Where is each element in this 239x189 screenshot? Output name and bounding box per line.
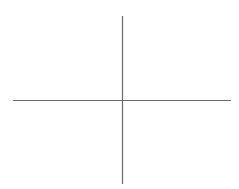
axes-diagram	[0, 0, 239, 189]
background	[0, 0, 239, 189]
